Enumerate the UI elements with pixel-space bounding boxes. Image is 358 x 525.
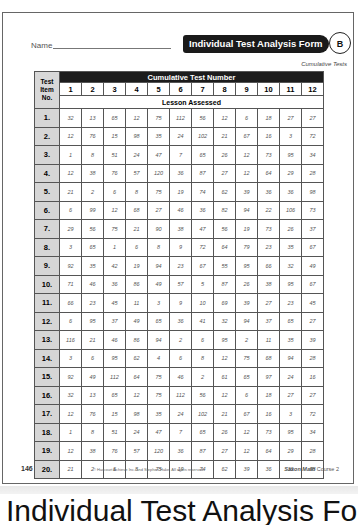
lesson-cell: 21 — [214, 127, 236, 146]
lesson-cell: 92 — [60, 368, 82, 387]
table-row: 2.127615983524102216716372 — [35, 127, 324, 146]
divider-strip — [0, 486, 358, 494]
lesson-cell: 94 — [236, 312, 258, 331]
table-row: 6.699126827463682942210673 — [35, 201, 324, 220]
lesson-cell: 94 — [236, 201, 258, 220]
test-item-number: 7. — [35, 220, 60, 239]
lesson-cell: 65 — [192, 423, 214, 442]
lesson-cell: 8 — [126, 183, 148, 202]
lesson-cell: 18 — [258, 386, 280, 405]
lesson-cell: 73 — [258, 423, 280, 442]
lesson-cell: 12 — [126, 386, 148, 405]
lesson-cell: 12 — [60, 164, 82, 183]
lesson-cell: 94 — [148, 331, 170, 350]
lesson-cell: 90 — [148, 220, 170, 239]
table-row: 8.3651689726479233567 — [35, 238, 324, 257]
lesson-cell: 112 — [170, 109, 192, 128]
table-row: 19.1238765712036872712642928 — [35, 442, 324, 461]
test-number-7: 7 — [192, 83, 214, 96]
lesson-cell: 49 — [148, 275, 170, 294]
lesson-cell: 112 — [104, 368, 126, 387]
test-item-number: 15. — [35, 368, 60, 387]
lesson-cell: 27 — [302, 109, 324, 128]
lesson-cell: 11 — [126, 294, 148, 313]
lesson-cell: 12 — [104, 201, 126, 220]
lesson-cell: 68 — [126, 201, 148, 220]
lesson-cell: 72 — [302, 405, 324, 424]
lesson-cell: 34 — [302, 146, 324, 165]
test-number-4: 4 — [126, 83, 148, 96]
lesson-cell: 56 — [214, 220, 236, 239]
lesson-cell: 57 — [170, 275, 192, 294]
lesson-cell: 38 — [170, 220, 192, 239]
lesson-cell: 32 — [280, 257, 302, 276]
test-number-6: 6 — [170, 83, 192, 96]
lesson-cell: 28 — [302, 442, 324, 461]
lesson-cell: 38 — [82, 164, 104, 183]
lesson-cell: 21 — [60, 460, 82, 479]
lesson-cell: 34 — [302, 423, 324, 442]
lesson-cell: 37 — [104, 312, 126, 331]
lesson-cell: 51 — [104, 423, 126, 442]
lesson-cell: 23 — [280, 294, 302, 313]
lesson-cell: 24 — [126, 146, 148, 165]
lesson-cell: 28 — [302, 349, 324, 368]
lesson-cell: 72 — [192, 238, 214, 257]
lesson-cell: 10 — [192, 294, 214, 313]
lesson-cell: 3 — [60, 349, 82, 368]
lesson-cell: 8 — [82, 146, 104, 165]
lesson-cell: 3 — [148, 294, 170, 313]
lesson-cell: 45 — [302, 294, 324, 313]
lesson-cell: 47 — [148, 423, 170, 442]
lesson-cell: 36 — [170, 164, 192, 183]
lesson-cell: 6 — [236, 109, 258, 128]
table-row: 13.1162146869426952113539 — [35, 331, 324, 350]
form-header: Name Individual Test Analysis Form B — [31, 35, 341, 57]
lesson-cell: 95 — [280, 146, 302, 165]
lesson-cell: 76 — [82, 127, 104, 146]
lesson-cell: 27 — [148, 201, 170, 220]
lesson-cell: 45 — [104, 294, 126, 313]
lesson-cell: 98 — [302, 183, 324, 202]
lesson-cell: 35 — [280, 331, 302, 350]
lesson-cell: 3 — [280, 127, 302, 146]
test-number-11: 11 — [280, 83, 302, 96]
lesson-cell: 7 — [170, 146, 192, 165]
lesson-cell: 49 — [126, 312, 148, 331]
table-row: 11.6623451139106939272345 — [35, 294, 324, 313]
lesson-cell: 64 — [258, 164, 280, 183]
name-field-line[interactable] — [53, 48, 171, 49]
lesson-cell: 62 — [214, 460, 236, 479]
lesson-cell: 27 — [280, 386, 302, 405]
lesson-cell: 62 — [214, 183, 236, 202]
lesson-cell: 65 — [192, 146, 214, 165]
lesson-cell: 46 — [170, 368, 192, 387]
lesson-cell: 116 — [60, 331, 82, 350]
lesson-cell: 87 — [214, 275, 236, 294]
lesson-cell: 61 — [214, 368, 236, 387]
lesson-cell: 82 — [214, 201, 236, 220]
lesson-cell: 2 — [192, 368, 214, 387]
table-row: 17.127615983524102216716372 — [35, 405, 324, 424]
lesson-cell: 65 — [104, 109, 126, 128]
lesson-cell: 8 — [82, 423, 104, 442]
lesson-cell: 35 — [82, 257, 104, 276]
lesson-cell: 95 — [236, 257, 258, 276]
test-number-8: 8 — [214, 83, 236, 96]
lesson-cell: 12 — [236, 164, 258, 183]
lesson-cell: 94 — [148, 257, 170, 276]
lesson-cell: 65 — [280, 312, 302, 331]
table-row: 7.295675219038475619732637 — [35, 220, 324, 239]
lesson-cell: 21 — [60, 183, 82, 202]
table-row: 18.185124477652612739534 — [35, 423, 324, 442]
lesson-cell: 46 — [104, 331, 126, 350]
lesson-cell: 75 — [236, 349, 258, 368]
lesson-cell: 39 — [236, 460, 258, 479]
lesson-cell: 56 — [192, 109, 214, 128]
lesson-cell: 38 — [258, 275, 280, 294]
lesson-cell: 46 — [170, 201, 192, 220]
lesson-cell: 12 — [60, 405, 82, 424]
lesson-cell: 24 — [280, 368, 302, 387]
lesson-cell: 26 — [214, 146, 236, 165]
lesson-cell: 57 — [126, 442, 148, 461]
